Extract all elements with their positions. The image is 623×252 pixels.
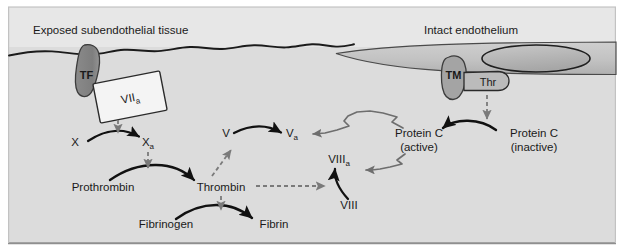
thrombomodulin-label: TM	[446, 69, 462, 81]
node-thrombin-label: Thrombin	[197, 181, 246, 193]
node-protein-c-active-line1: Protein C	[395, 127, 443, 139]
node-protein-c-inactive-line2: (inactive)	[511, 141, 558, 153]
node-fibrin-label: Fibrin	[260, 218, 289, 230]
node-fibrinogen-label: Fibrinogen	[139, 218, 193, 230]
node-factor-v-label: V	[222, 127, 230, 139]
node-factor-viii-label: VIII	[340, 199, 357, 211]
exposed-subendothelial-tissue-label: Exposed subendothelial tissue	[33, 24, 188, 36]
node-protein-c-active-line2: (active)	[400, 141, 438, 153]
intact-endothelium-label: Intact endothelium	[424, 24, 518, 36]
node-prothrombin-label: Prothrombin	[72, 181, 135, 193]
node-factor-x-label: X	[71, 136, 79, 148]
tissue-factor-label: TF	[80, 69, 94, 81]
bound-thrombin-label: Thr	[480, 76, 497, 88]
node-protein-c-inactive-line1: Protein C	[510, 127, 558, 139]
endothelial-cell-nucleus	[482, 45, 590, 72]
coagulation-diagram: Exposed subendothelial tissue Intact end…	[0, 0, 623, 252]
figure-container: Exposed subendothelial tissue Intact end…	[0, 0, 623, 252]
